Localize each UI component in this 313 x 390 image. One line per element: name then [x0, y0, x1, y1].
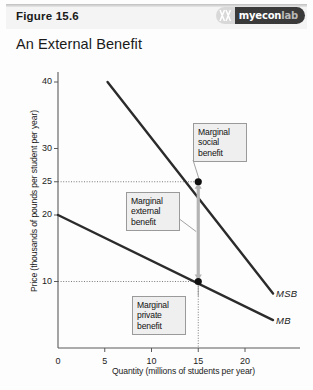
y-tick-label: 30	[26, 143, 52, 153]
annotation-line: benefit	[198, 148, 242, 158]
annotation-marginal-private-benefit: Marginal private benefit	[132, 296, 186, 335]
annotation-line: Marginal	[137, 300, 181, 310]
marker-msb-point	[195, 178, 202, 185]
x-tick-label: 5	[94, 356, 116, 366]
curve-label-mb: MB	[276, 315, 291, 326]
marker-mb-point	[195, 278, 202, 285]
figure-container: Figure 15.6 An External Benefit myeconla…	[0, 0, 313, 390]
curve-label-msb: MSB	[276, 288, 297, 299]
x-tick-label: 15	[187, 356, 209, 366]
annotation-marginal-social-benefit: Marginal social benefit	[193, 123, 247, 162]
annotation-line: Marginal	[198, 127, 242, 137]
y-tick-label: 40	[26, 76, 52, 86]
annotation-marginal-external-benefit: Marginal external benefit	[126, 192, 180, 231]
annotation-line: benefit	[137, 321, 181, 331]
x-axis-label: Quantity (millions of students per year)	[112, 366, 255, 376]
x-tick-label: 10	[141, 356, 163, 366]
annotation-line: external	[131, 206, 175, 216]
x-tick-label: 20	[234, 356, 256, 366]
annotation-line: benefit	[131, 217, 175, 227]
x-tick-label: 0	[47, 356, 69, 366]
y-tick-label: 10	[26, 276, 52, 286]
annotation-line: social	[198, 137, 242, 147]
y-tick-label: 20	[26, 209, 52, 219]
annotation-line: Marginal	[131, 196, 175, 206]
y-tick-label: 25	[26, 176, 52, 186]
annotation-line: private	[137, 310, 181, 320]
annotation-leader-line-0	[193, 160, 199, 180]
chart-plot-area: Price (thousands of pounds per student p…	[0, 0, 313, 390]
curve-MSB	[108, 82, 273, 293]
